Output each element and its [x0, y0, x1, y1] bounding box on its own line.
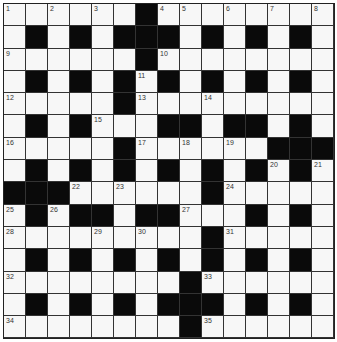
- grid-cell[interactable]: [4, 26, 26, 48]
- grid-cell[interactable]: 23: [114, 182, 136, 204]
- grid-cell[interactable]: 30: [136, 227, 158, 249]
- grid-cell[interactable]: [224, 249, 246, 271]
- grid-cell[interactable]: [26, 138, 48, 160]
- grid-cell[interactable]: [312, 71, 334, 93]
- grid-cell[interactable]: [224, 294, 246, 316]
- grid-cell[interactable]: 21: [312, 160, 334, 182]
- grid-cell[interactable]: [180, 71, 202, 93]
- grid-cell[interactable]: [70, 272, 92, 294]
- grid-cell[interactable]: [48, 294, 70, 316]
- grid-cell[interactable]: 1: [4, 4, 26, 26]
- grid-cell[interactable]: [224, 49, 246, 71]
- grid-cell[interactable]: 32: [4, 272, 26, 294]
- grid-cell[interactable]: [48, 249, 70, 271]
- grid-cell[interactable]: [202, 115, 224, 137]
- grid-cell[interactable]: [312, 182, 334, 204]
- grid-cell[interactable]: [48, 316, 70, 338]
- grid-cell[interactable]: [4, 71, 26, 93]
- grid-cell[interactable]: [268, 316, 290, 338]
- grid-cell[interactable]: [268, 249, 290, 271]
- grid-cell[interactable]: 8: [312, 4, 334, 26]
- grid-cell[interactable]: [202, 49, 224, 71]
- grid-cell[interactable]: [246, 49, 268, 71]
- grid-cell[interactable]: [268, 93, 290, 115]
- grid-cell[interactable]: 28: [4, 227, 26, 249]
- grid-cell[interactable]: [92, 294, 114, 316]
- grid-cell[interactable]: [246, 227, 268, 249]
- grid-cell[interactable]: 34: [4, 316, 26, 338]
- grid-cell[interactable]: 15: [92, 115, 114, 137]
- grid-cell[interactable]: [312, 316, 334, 338]
- grid-cell[interactable]: 10: [158, 49, 180, 71]
- grid-cell[interactable]: [114, 227, 136, 249]
- grid-cell[interactable]: [268, 272, 290, 294]
- grid-cell[interactable]: [158, 182, 180, 204]
- grid-cell[interactable]: [92, 49, 114, 71]
- grid-cell[interactable]: [224, 272, 246, 294]
- grid-cell[interactable]: [268, 115, 290, 137]
- grid-cell[interactable]: 20: [268, 160, 290, 182]
- grid-cell[interactable]: [180, 249, 202, 271]
- grid-cell[interactable]: [312, 249, 334, 271]
- grid-cell[interactable]: [48, 160, 70, 182]
- grid-cell[interactable]: [158, 227, 180, 249]
- grid-cell[interactable]: [290, 4, 312, 26]
- grid-cell[interactable]: [312, 205, 334, 227]
- grid-cell[interactable]: [158, 93, 180, 115]
- grid-cell[interactable]: 27: [180, 205, 202, 227]
- grid-cell[interactable]: [312, 26, 334, 48]
- grid-cell[interactable]: [92, 26, 114, 48]
- grid-cell[interactable]: [290, 93, 312, 115]
- grid-cell[interactable]: [268, 182, 290, 204]
- grid-cell[interactable]: [312, 115, 334, 137]
- grid-cell[interactable]: 9: [4, 49, 26, 71]
- grid-cell[interactable]: [202, 205, 224, 227]
- grid-cell[interactable]: [70, 138, 92, 160]
- grid-cell[interactable]: [92, 71, 114, 93]
- grid-cell[interactable]: 13: [136, 93, 158, 115]
- grid-cell[interactable]: [136, 249, 158, 271]
- grid-cell[interactable]: [48, 26, 70, 48]
- grid-cell[interactable]: 33: [202, 272, 224, 294]
- grid-cell[interactable]: [268, 205, 290, 227]
- grid-cell[interactable]: [48, 115, 70, 137]
- grid-cell[interactable]: [246, 138, 268, 160]
- grid-cell[interactable]: 12: [4, 93, 26, 115]
- grid-cell[interactable]: 29: [92, 227, 114, 249]
- grid-cell[interactable]: [114, 272, 136, 294]
- grid-cell[interactable]: [114, 316, 136, 338]
- grid-cell[interactable]: [92, 93, 114, 115]
- grid-cell[interactable]: 16: [4, 138, 26, 160]
- grid-cell[interactable]: 31: [224, 227, 246, 249]
- grid-cell[interactable]: [136, 160, 158, 182]
- grid-cell[interactable]: [246, 93, 268, 115]
- grid-cell[interactable]: [290, 227, 312, 249]
- grid-cell[interactable]: [312, 272, 334, 294]
- grid-cell[interactable]: [290, 182, 312, 204]
- grid-cell[interactable]: [92, 316, 114, 338]
- grid-cell[interactable]: [4, 294, 26, 316]
- grid-cell[interactable]: 18: [180, 138, 202, 160]
- grid-cell[interactable]: [224, 205, 246, 227]
- grid-cell[interactable]: [4, 160, 26, 182]
- grid-cell[interactable]: [48, 71, 70, 93]
- grid-cell[interactable]: [26, 4, 48, 26]
- grid-cell[interactable]: [224, 93, 246, 115]
- grid-cell[interactable]: [268, 71, 290, 93]
- grid-cell[interactable]: [268, 49, 290, 71]
- grid-cell[interactable]: 4: [158, 4, 180, 26]
- grid-cell[interactable]: [312, 227, 334, 249]
- grid-cell[interactable]: [180, 227, 202, 249]
- grid-cell[interactable]: 3: [92, 4, 114, 26]
- grid-cell[interactable]: [180, 182, 202, 204]
- grid-cell[interactable]: [70, 49, 92, 71]
- grid-cell[interactable]: 11: [136, 71, 158, 93]
- grid-cell[interactable]: [202, 4, 224, 26]
- grid-cell[interactable]: 26: [48, 205, 70, 227]
- grid-cell[interactable]: [224, 26, 246, 48]
- grid-cell[interactable]: 24: [224, 182, 246, 204]
- grid-cell[interactable]: [4, 249, 26, 271]
- grid-cell[interactable]: [48, 93, 70, 115]
- grid-cell[interactable]: [26, 227, 48, 249]
- grid-cell[interactable]: [180, 93, 202, 115]
